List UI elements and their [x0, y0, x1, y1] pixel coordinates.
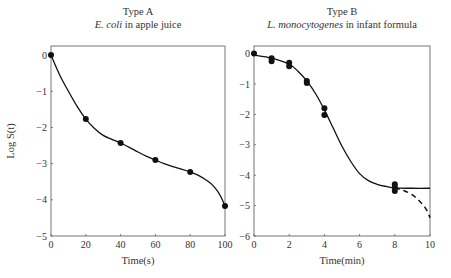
- y-tick-label: −2: [239, 109, 250, 120]
- x-tick-label: 60: [150, 239, 160, 250]
- x-tick-label: 10: [425, 239, 435, 250]
- plot-frame: [254, 46, 430, 236]
- fit-curve: [51, 55, 225, 206]
- panel-subtitle: E. coli in apple juice: [94, 19, 182, 30]
- x-tick-label: 40: [116, 239, 126, 250]
- x-tick-label: 6: [357, 239, 362, 250]
- y-axis-label: Log S(t): [5, 123, 17, 159]
- panel-subtitle: L. monocytogenes in infant formula: [266, 19, 417, 30]
- x-tick-label: 100: [218, 239, 233, 250]
- y-tick-label: −4: [239, 170, 250, 181]
- y-tick-label: −4: [36, 194, 47, 205]
- panel-title: Type A: [123, 6, 154, 17]
- panel-type-a: Type AE. coli in apple juice020406080100…: [5, 6, 233, 267]
- y-tick-label: −2: [36, 122, 47, 133]
- y-tick-label: −6: [239, 231, 250, 242]
- x-tick-label: 20: [81, 239, 91, 250]
- fit-curve: [254, 55, 430, 188]
- y-tick-label: −3: [239, 139, 250, 150]
- y-tick-label: 0: [42, 50, 47, 61]
- x-tick-label: 4: [322, 239, 327, 250]
- y-tick-label: −1: [239, 79, 250, 90]
- panel-title: Type B: [327, 6, 357, 17]
- y-tick-label: −5: [239, 200, 250, 211]
- y-tick-label: −5: [36, 231, 47, 242]
- x-axis-label: Time(min): [319, 255, 365, 267]
- y-tick-label: −3: [36, 158, 47, 169]
- y-tick-label: −1: [36, 86, 47, 97]
- x-tick-label: 80: [185, 239, 195, 250]
- x-tick-label: 0: [49, 239, 54, 250]
- x-axis-label: Time(s): [122, 255, 155, 267]
- y-tick-label: 0: [245, 48, 250, 59]
- plot-frame: [51, 46, 225, 236]
- dashed-fit-curve: [395, 188, 430, 218]
- x-tick-label: 8: [392, 239, 397, 250]
- figure: Type AE. coli in apple juice020406080100…: [0, 0, 451, 278]
- x-tick-label: 2: [287, 239, 292, 250]
- panel-type-b: Type BL. monocytogenes in infant formula…: [239, 6, 435, 267]
- x-tick-label: 0: [252, 239, 257, 250]
